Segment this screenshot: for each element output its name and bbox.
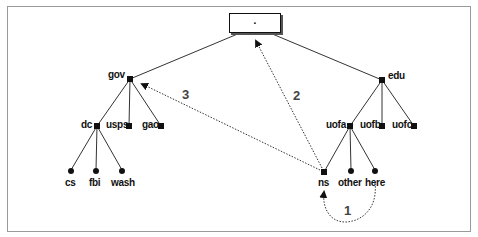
node-dc-label: dc — [81, 119, 92, 130]
node-here-label: here — [365, 177, 385, 188]
node-uofc-label: uofc — [392, 119, 412, 130]
step-1-label: 1 — [344, 203, 351, 218]
node-edu-label: edu — [388, 70, 405, 81]
root-label: . — [254, 15, 257, 26]
root-node: . — [229, 13, 281, 33]
node-wash-label: wash — [111, 177, 135, 188]
step-2-label: 2 — [293, 88, 300, 103]
step-3-label: 3 — [182, 87, 189, 102]
step-2-arrow — [256, 41, 322, 168]
node-fbi-label: fbi — [89, 177, 100, 188]
node-ns-label: ns — [318, 177, 329, 188]
node-usps-label: usps — [106, 119, 128, 130]
node-cs-label: cs — [65, 177, 76, 188]
node-other-label: other — [338, 177, 362, 188]
node-gao-label: gao — [142, 119, 159, 130]
node-uofa-label: uofa — [326, 119, 346, 130]
node-uofb-label: uofb — [360, 119, 380, 130]
node-gov-label: gov — [108, 69, 125, 80]
